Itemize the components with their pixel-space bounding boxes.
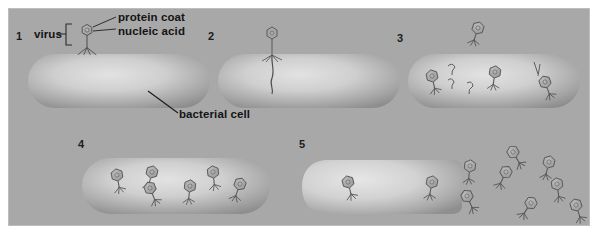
figure-root: 1 2 3 4 5 virus protein coat nucleic aci…	[0, 0, 598, 239]
diagram-vector-layer	[0, 0, 598, 239]
step-number-1: 1	[16, 30, 22, 42]
bacteriophage-icon	[569, 197, 588, 224]
step-number-2: 2	[208, 30, 214, 42]
bracket-icon	[66, 24, 72, 45]
step-number-3: 3	[397, 32, 403, 44]
step-4-group	[82, 158, 270, 214]
bacteriophage-icon	[463, 159, 477, 185]
bacteriophage-icon	[539, 155, 556, 182]
bacteriophage-icon	[493, 164, 514, 191]
step-3-group	[408, 20, 580, 108]
step-number-4: 4	[78, 138, 84, 150]
bacteriophage-icon	[516, 195, 539, 222]
label-protein-coat: protein coat	[118, 11, 185, 23]
bacteriophage-icon	[467, 20, 486, 47]
bacterial-cell-icon	[28, 54, 210, 108]
label-nucleic-acid: nucleic acid	[118, 25, 185, 37]
bacteriophage-icon	[460, 188, 481, 215]
step-5-group	[302, 144, 588, 225]
bacterial-cell-lysed-icon	[302, 160, 462, 214]
label-bacterial-cell: bacterial cell	[179, 108, 250, 120]
step-number-5: 5	[299, 138, 305, 150]
leader-line-icon	[93, 29, 116, 31]
leader-line-icon	[93, 17, 116, 27]
step-2-group	[218, 27, 400, 108]
label-virus: virus	[34, 28, 62, 40]
bacteriophage-icon	[551, 177, 566, 203]
bacteriophage-icon	[78, 24, 96, 54]
bacterial-cell-icon	[218, 54, 400, 108]
